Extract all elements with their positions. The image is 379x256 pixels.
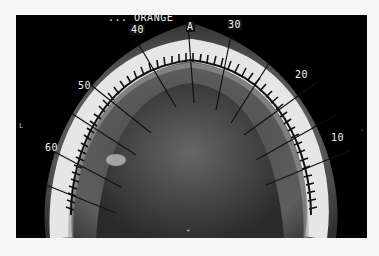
mandible-scan-graphic [16, 15, 367, 238]
right-side-marker: - [360, 126, 364, 134]
header-label: ... ORANGE [108, 15, 173, 23]
curve-label-30: 30 [227, 19, 242, 30]
curve-label-60: 60 [45, 142, 58, 153]
curve-label-10: 10 [331, 132, 344, 143]
curve-label-50: 50 [78, 80, 91, 91]
ct-scan-image: ... ORANGE 40 A 30 50 20 60 10 L - • [16, 15, 367, 238]
curve-label-anterior: A [186, 21, 195, 32]
bottom-marker: • [186, 227, 190, 235]
curve-label-40: 40 [130, 24, 145, 35]
curve-label-20: 20 [295, 69, 308, 80]
left-side-marker: L [19, 122, 23, 130]
